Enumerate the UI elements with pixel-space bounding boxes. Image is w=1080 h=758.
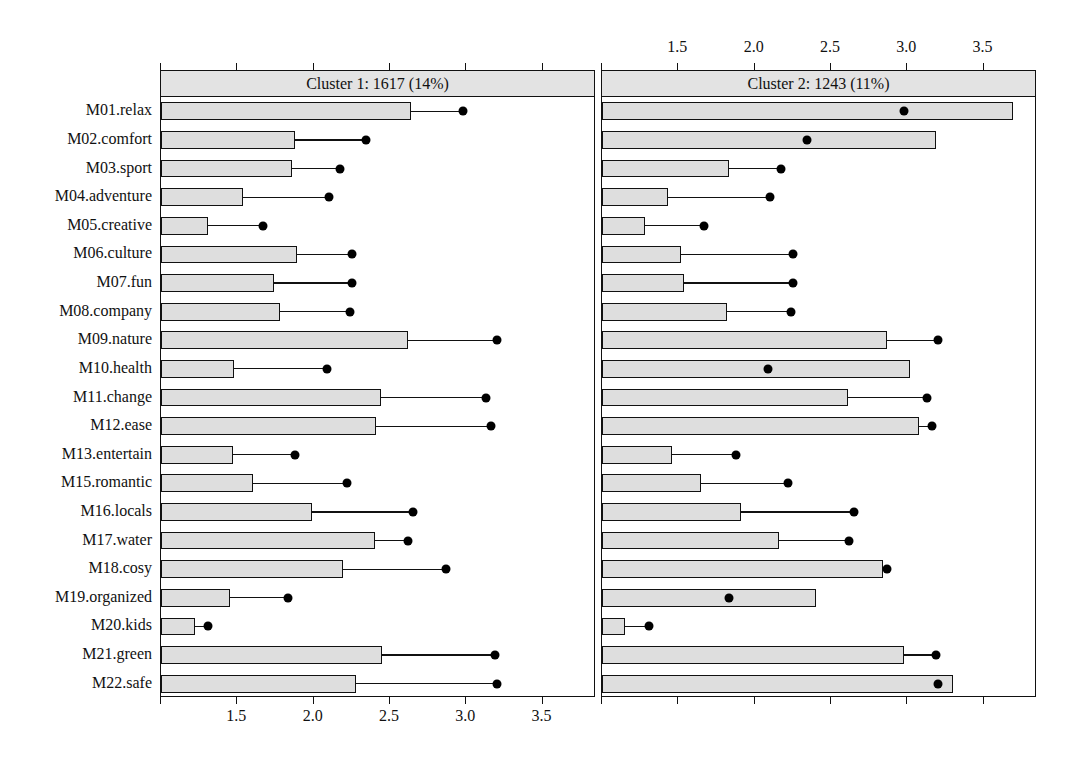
axis-tick-label-bottom: 3.0	[455, 707, 475, 725]
bar	[602, 246, 681, 264]
row-label: M21.green	[82, 645, 152, 663]
bar	[161, 246, 297, 264]
row-label: M02.comfort	[67, 130, 152, 148]
bar	[602, 589, 816, 607]
mean-dot	[323, 364, 332, 373]
row-label: M22.safe	[92, 674, 152, 692]
bar	[161, 474, 253, 492]
axis-tick-label-bottom: 2.5	[379, 707, 399, 725]
mean-dot	[408, 507, 417, 516]
whisker-line	[274, 282, 352, 283]
panel-strip-cluster1: Cluster 1: 1617 (14%)	[161, 71, 594, 97]
whisker-line	[233, 454, 296, 455]
bar	[161, 446, 233, 464]
mean-dot	[335, 164, 344, 173]
axis-tick-top	[983, 63, 984, 70]
whisker-line	[741, 511, 854, 512]
bar	[602, 274, 684, 292]
row-label: M08.company	[59, 302, 152, 320]
whisker-line	[295, 139, 365, 140]
mean-dot	[932, 651, 941, 660]
bar	[161, 102, 411, 120]
mean-dot	[849, 507, 858, 516]
whisker-line	[381, 397, 486, 398]
bar	[161, 675, 356, 693]
mean-dot	[765, 193, 774, 202]
row-label: M11.change	[73, 388, 152, 406]
bar	[161, 560, 343, 578]
whisker-line	[848, 397, 927, 398]
bar	[602, 331, 887, 349]
whisker-line	[684, 282, 792, 283]
bar	[602, 188, 668, 206]
mean-dot	[776, 164, 785, 173]
mean-dot	[645, 622, 654, 631]
axis-tick-bottom	[601, 697, 602, 704]
bar	[602, 646, 904, 664]
whisker-line	[234, 368, 327, 369]
whisker-line	[243, 197, 328, 198]
whisker-line	[253, 483, 348, 484]
axis-tick-bottom	[983, 697, 984, 704]
row-label: M16.locals	[80, 502, 152, 520]
bar	[161, 274, 274, 292]
whisker-line	[645, 225, 705, 226]
bar	[602, 160, 729, 178]
row-label: M07.fun	[96, 273, 152, 291]
bar	[602, 417, 919, 435]
axis-tick-bottom	[677, 697, 678, 704]
mean-dot	[933, 336, 942, 345]
mean-dot	[784, 479, 793, 488]
row-label: M06.culture	[73, 244, 152, 262]
mean-dot	[923, 393, 932, 402]
bar	[161, 646, 382, 664]
panel-cluster2: Cluster 2: 1243 (11%)	[601, 70, 1036, 697]
mean-dot	[259, 221, 268, 230]
mean-dot	[724, 593, 733, 602]
whisker-line	[312, 511, 413, 512]
bar	[161, 131, 295, 149]
mean-dot	[492, 336, 501, 345]
whisker-line	[356, 683, 496, 684]
axis-tick-top	[906, 63, 907, 70]
axis-tick-top	[601, 63, 602, 70]
row-label: M09.nature	[78, 330, 152, 348]
row-label: M03.sport	[86, 159, 152, 177]
axis-tick-label-top: 2.0	[744, 38, 764, 56]
axis-tick-label-top: 1.5	[667, 38, 687, 56]
bar	[602, 503, 741, 521]
mean-dot	[933, 679, 942, 688]
bar	[161, 618, 195, 636]
mean-dot	[291, 450, 300, 459]
mean-dot	[204, 622, 213, 631]
row-label: M19.organized	[55, 588, 152, 606]
mean-dot	[491, 651, 500, 660]
axis-tick-bottom	[830, 697, 831, 704]
whisker-line	[230, 597, 288, 598]
bar	[161, 303, 280, 321]
chart-figure: 1.51.52.02.02.52.53.03.03.53.5 M01.relax…	[0, 0, 1080, 758]
axis-tick-bottom	[906, 697, 907, 704]
bar	[602, 303, 727, 321]
whisker-line	[701, 483, 788, 484]
axis-tick-label-top: 3.0	[896, 38, 916, 56]
whisker-line	[729, 168, 781, 169]
mean-dot	[764, 364, 773, 373]
bar	[161, 160, 292, 178]
axis-tick-top	[830, 63, 831, 70]
mean-dot	[787, 307, 796, 316]
axis-tick-bottom	[465, 697, 466, 704]
axis-tick-top	[160, 63, 161, 70]
mean-dot	[486, 422, 495, 431]
panel-strip-label: Cluster 2: 1243 (11%)	[747, 75, 889, 93]
axis-tick-top	[754, 63, 755, 70]
mean-dot	[802, 135, 811, 144]
bar	[161, 217, 208, 235]
panel-strip-cluster2: Cluster 2: 1243 (11%)	[602, 71, 1035, 97]
mean-dot	[883, 565, 892, 574]
row-label: M13.entertain	[62, 445, 152, 463]
axis-tick-bottom	[542, 697, 543, 704]
whisker-line	[681, 254, 792, 255]
mean-dot	[492, 679, 501, 688]
mean-dot	[343, 479, 352, 488]
